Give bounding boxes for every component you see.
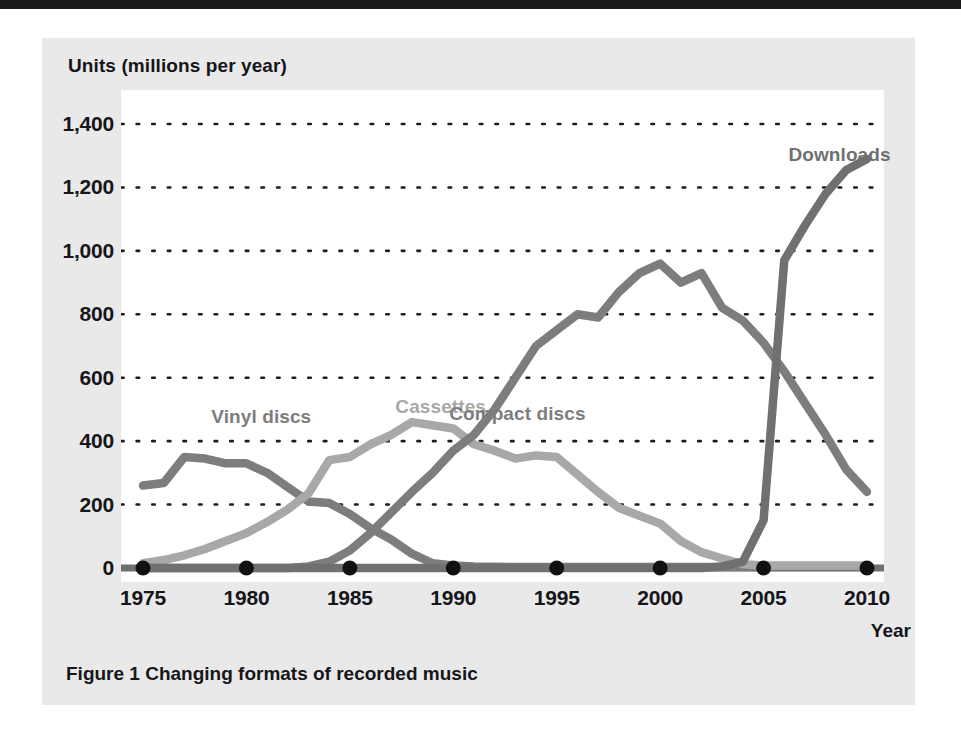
axis-marker-dot xyxy=(446,561,461,576)
y-tick-label: 200 xyxy=(4,493,114,517)
series-label-downloads: Downloads xyxy=(788,144,890,166)
page-top-bar xyxy=(0,0,961,9)
x-tick-label: 2005 xyxy=(741,586,787,610)
y-axis-tick-labels: 02004006008001,0001,2001,400 xyxy=(0,90,114,582)
y-tick-label: 1,400 xyxy=(4,112,114,136)
x-tick-label: 1995 xyxy=(534,586,580,610)
series-line-cassettes xyxy=(143,422,867,565)
axis-marker-dot xyxy=(860,561,875,576)
chart-svg xyxy=(121,90,884,582)
series-label-compact-discs: Compact discs xyxy=(449,403,585,425)
series-lines xyxy=(143,159,867,568)
y-tick-label: 600 xyxy=(4,366,114,390)
x-tick-label: 1980 xyxy=(223,586,269,610)
x-axis-tick-labels: 19751980198519901995200020052010 xyxy=(121,586,884,618)
x-axis-title: Year xyxy=(871,620,911,642)
series-line-downloads xyxy=(143,159,867,568)
series-line-vinyl-discs xyxy=(143,457,867,567)
y-axis-title: Units (millions per year) xyxy=(68,55,287,77)
x-tick-label: 2000 xyxy=(637,586,683,610)
y-tick-label: 400 xyxy=(4,429,114,453)
y-tick-label: 800 xyxy=(4,302,114,326)
x-tick-label: 1990 xyxy=(430,586,476,610)
axis-marker-dot xyxy=(756,561,771,576)
x-tick-label: 1985 xyxy=(327,586,373,610)
y-tick-label: 1,000 xyxy=(4,239,114,263)
y-tick-label: 1,200 xyxy=(4,175,114,199)
axis-marker-dot xyxy=(136,561,151,576)
axis-marker-dot xyxy=(549,561,564,576)
figure-caption: Figure 1 Changing formats of recorded mu… xyxy=(66,663,478,685)
plot-area xyxy=(121,90,884,582)
series-label-vinyl-discs: Vinyl discs xyxy=(211,406,311,428)
axis-marker-dot xyxy=(342,561,357,576)
axis-marker-dot xyxy=(239,561,254,576)
y-tick-label: 0 xyxy=(4,556,114,580)
x-tick-label: 1975 xyxy=(120,586,166,610)
axis-marker-dot xyxy=(653,561,668,576)
x-tick-label: 2010 xyxy=(844,586,890,610)
